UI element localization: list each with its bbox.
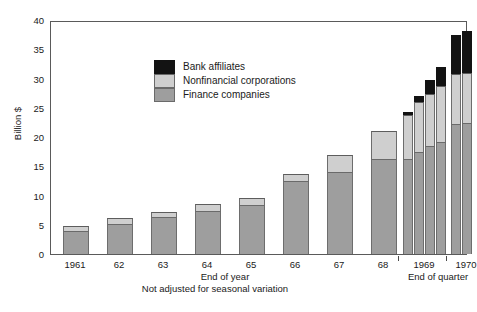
bar-segment-finance-companies [451,124,461,254]
bar-66-5 [283,174,309,254]
bar-segment-finance-companies [107,224,133,254]
bar-segment-bank-affiliates [403,112,413,115]
bar-1969-8 [403,112,413,254]
bar-segment-finance-companies [462,123,472,254]
bar-segment-finance-companies [327,172,353,254]
x-axis-tick-label: 1970 [455,260,476,270]
bar-segment-bank-affiliates [451,35,461,75]
bar-1969-10 [425,80,435,254]
bar-segment-nonfinancial-corporations [239,198,265,205]
y-axis-tick-label: 10 [18,192,44,202]
bar-segment-nonfinancial-corporations [462,73,472,123]
legend-swatch-bank [154,60,175,74]
x-axis-tick-label: 63 [158,260,169,270]
bar-62-1 [107,218,133,254]
bar-segment-finance-companies [371,159,397,254]
x-axis-tick-label: 1969 [413,260,434,270]
legend-label: Finance companies [183,89,270,101]
x-axis-tick-label: 65 [246,260,257,270]
bar-segment-nonfinancial-corporations [327,155,353,173]
bar-1970-12 [451,35,461,254]
bar-segment-bank-affiliates [462,31,472,74]
bar-1969-9 [414,96,424,254]
y-axis-tick-label: 40 [18,16,44,26]
y-axis-tick-label: 30 [18,75,44,85]
bar-segment-nonfinancial-corporations [436,86,446,142]
x-axis-tick-label: 66 [290,260,301,270]
bar-segment-nonfinancial-corporations [414,102,424,152]
bar-segment-finance-companies [414,152,424,254]
bar-segment-bank-affiliates [425,80,435,95]
y-axis-tick-label: 0 [18,250,44,260]
bar-1961-0 [63,226,89,254]
y-axis-title: Billion $ [12,79,23,169]
bar-65-4 [239,198,265,254]
legend-label: Bank affiliates [183,61,245,73]
y-axis-tick-label: 35 [18,45,44,55]
chart-footnote: Not adjusted for seasonal variation [0,283,430,294]
bar-segment-finance-companies [425,146,435,254]
bar-segment-bank-affiliates [436,67,446,86]
bar-segment-nonfinancial-corporations [151,212,177,217]
x-axis-tick-label: 1961 [64,260,85,270]
y-axis-tick-label: 20 [18,133,44,143]
bar-segment-finance-companies [151,217,177,254]
bar-63-2 [151,212,177,254]
bar-68-7 [371,131,397,254]
bar-67-6 [327,155,353,254]
bar-segment-finance-companies [239,205,265,254]
x-axis-group-label: End of quarter [408,272,468,282]
bar-segment-finance-companies [436,142,446,254]
bar-1970-13 [462,31,472,254]
x-axis-tick-label: 62 [114,260,125,270]
bar-segment-bank-affiliates [414,96,424,102]
bar-segment-nonfinancial-corporations [283,174,309,182]
x-axis-tick-label: 68 [378,260,389,270]
bar-segment-nonfinancial-corporations [195,204,221,210]
bar-segment-nonfinancial-corporations [63,226,89,231]
x-axis-tick-label: 67 [334,260,345,270]
y-axis-tick-label: 25 [18,104,44,114]
bar-segment-nonfinancial-corporations [425,94,435,145]
bar-segment-finance-companies [195,211,221,254]
bar-segment-finance-companies [63,231,89,254]
bar-1969-11 [436,67,446,254]
bar-segment-nonfinancial-corporations [403,115,413,159]
bar-64-3 [195,204,221,254]
y-axis-tick-label: 15 [18,162,44,172]
bar-segment-nonfinancial-corporations [451,74,461,123]
y-axis-tick-label: 5 [18,221,44,231]
x-axis-tick-label: 64 [202,260,213,270]
bar-segment-finance-companies [403,159,413,254]
x-axis-group-label: End of year [201,272,250,282]
x-axis-group-separator [446,256,447,261]
plot-area: Bank affiliatesNonfinancial corporations… [50,21,467,255]
legend-swatch-finance [154,88,175,102]
bar-segment-finance-companies [283,181,309,254]
x-axis-group-separator [398,256,399,261]
legend-label: Nonfinancial corporations [183,75,296,87]
legend-swatch-nonfin [154,74,175,88]
bar-segment-nonfinancial-corporations [371,131,397,158]
bar-segment-nonfinancial-corporations [107,218,133,224]
